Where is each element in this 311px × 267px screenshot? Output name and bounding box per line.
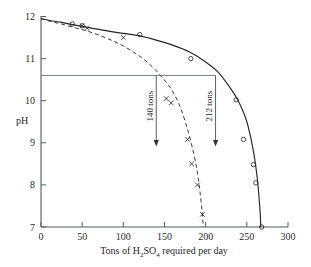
annotation-140-tons: 140 tons <box>145 75 159 146</box>
data-point-cross <box>164 96 169 101</box>
x-axis-title-post: required per day <box>160 245 228 256</box>
data-point-cross <box>185 137 190 142</box>
x-tick-label: 50 <box>77 231 87 242</box>
x-tick-label: 250 <box>239 231 254 242</box>
data-point-cross <box>189 162 194 167</box>
annotation-arrow-head <box>213 140 218 147</box>
x-tick-label: 300 <box>281 231 296 242</box>
x-axis-title-pre: Tons of H <box>100 245 140 256</box>
curves-group <box>41 19 261 227</box>
annotation-212-tons: 212 tons <box>204 75 218 146</box>
data-point-cross <box>121 35 126 40</box>
x-tick-label: 200 <box>198 231 213 242</box>
data-markers-group <box>70 22 264 229</box>
y-tick-label: 8 <box>30 179 35 190</box>
annotation-arrow-head <box>154 140 159 147</box>
axes-group <box>41 16 288 227</box>
y-tick-label: 10 <box>25 95 35 106</box>
annotation-label: 212 tons <box>204 90 214 121</box>
y-tick-label: 9 <box>30 137 35 148</box>
data-point-circle <box>251 162 255 166</box>
x-axis-ticks: 050100150200250300 <box>39 222 296 242</box>
x-axis-title-mid: SO <box>144 245 157 256</box>
x-tick-label: 150 <box>157 231 172 242</box>
y-axis-title: pH <box>16 115 28 126</box>
curve-dashed-curve <box>41 19 203 227</box>
x-tick-label: 0 <box>39 231 44 242</box>
data-point-circle <box>189 56 193 60</box>
y-tick-label: 7 <box>30 222 35 233</box>
y-axis-ticks: 789101112 <box>25 11 46 233</box>
chart-figure: 789101112 050100150200250300 140 tons212… <box>0 0 311 267</box>
data-point-cross <box>169 101 174 106</box>
annotation-label: 140 tons <box>145 90 155 121</box>
data-point-circle <box>241 137 245 141</box>
curve-solid-curve <box>41 19 261 227</box>
x-axis-title: Tons of H2SO4 required per day <box>100 245 228 259</box>
x-tick-label: 100 <box>116 231 131 242</box>
y-tick-label: 12 <box>25 11 35 22</box>
ph-titration-chart: 789101112 050100150200250300 140 tons212… <box>0 0 311 267</box>
y-tick-label: 11 <box>25 53 35 64</box>
data-point-cross <box>85 26 90 31</box>
